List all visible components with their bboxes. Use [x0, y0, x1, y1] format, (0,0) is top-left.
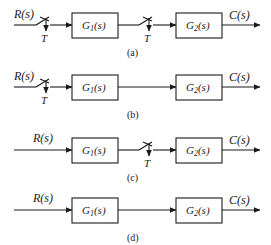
sampler-period-label: T — [41, 94, 48, 106]
input-label-c: R(s) — [32, 131, 53, 145]
output-label-b: C(s) — [229, 70, 250, 84]
block-g1-label: G1(s) — [82, 204, 106, 218]
block-g1-label: G1(s) — [82, 19, 106, 33]
diagram-a: R(s) T G1(s) T G2(s) C(s) (a) — [13, 7, 260, 59]
sampler-switch-icon — [139, 17, 152, 31]
block-diagram-figure: R(s) T G1(s) T G2(s) C(s) (a) R(s) — [0, 0, 271, 245]
caption-b: (b) — [127, 109, 139, 121]
sampler-switch-icon — [36, 79, 49, 93]
block-g2-label: G2(s) — [186, 144, 210, 158]
caption-c: (c) — [127, 172, 138, 184]
input-label-a: R(s) — [13, 7, 34, 21]
diagram-b: R(s) T G1(s) G2(s) C(s) (b) — [13, 69, 260, 121]
sampler-period-label: T — [144, 32, 151, 44]
sampler-switch-icon — [36, 17, 49, 31]
block-g2-label: G2(s) — [186, 81, 210, 95]
input-label-b: R(s) — [13, 69, 34, 83]
diagram-d: R(s) G1(s) G2(s) C(s) (d) — [14, 191, 260, 244]
sampler-period-label: T — [41, 32, 48, 44]
sampler-switch-icon — [139, 142, 152, 156]
output-label-c: C(s) — [229, 133, 250, 147]
block-g1-label: G1(s) — [82, 81, 106, 95]
sampler-period-label: T — [144, 157, 151, 169]
input-label-d: R(s) — [32, 191, 53, 205]
caption-d: (d) — [127, 232, 139, 244]
block-g2-label: G2(s) — [186, 19, 210, 33]
block-g1-label: G1(s) — [82, 144, 106, 158]
diagram-c: R(s) G1(s) T G2(s) C(s) (c) — [14, 131, 260, 184]
output-label-d: C(s) — [229, 193, 250, 207]
block-g2-label: G2(s) — [186, 204, 210, 218]
output-label-a: C(s) — [229, 8, 250, 22]
caption-a: (a) — [127, 47, 138, 59]
